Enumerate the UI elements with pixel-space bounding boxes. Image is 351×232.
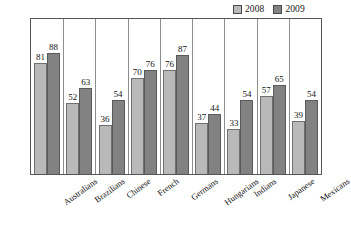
bar-rect[interactable] (112, 100, 125, 174)
bar-rect[interactable] (34, 63, 47, 174)
bar-group: 8188 (31, 19, 63, 174)
bar-group: 3354 (224, 19, 256, 174)
plot-inner: 818852633654707676873744335457653954 (31, 19, 321, 174)
bar-2009[interactable]: 76 (144, 19, 157, 174)
x-axis-label: Australians (62, 176, 100, 207)
x-axis-label: Chinese (124, 176, 152, 200)
bar-group-bars: 3354 (224, 19, 256, 174)
bar-group-bars: 8188 (31, 19, 63, 174)
bar-rect[interactable] (66, 103, 79, 174)
x-axis-label: Germans (189, 176, 220, 202)
legend-swatch-2009 (273, 5, 282, 14)
bar-group-bars: 7687 (160, 19, 192, 174)
bar-2009[interactable]: 63 (79, 19, 92, 174)
bar-group: 7687 (160, 19, 192, 174)
bar-rect[interactable] (305, 100, 318, 174)
x-axis-label: Japanese (285, 176, 316, 202)
bar-2008[interactable]: 52 (66, 19, 79, 174)
bar-rect[interactable] (227, 129, 240, 174)
chart-legend: 2008 2009 (233, 3, 305, 15)
bar-group-bars: 3654 (95, 19, 127, 174)
legend-item-2009: 2009 (273, 5, 304, 14)
legend-label-2009: 2009 (285, 5, 304, 14)
bar-2009[interactable]: 65 (273, 19, 286, 174)
bar-rect[interactable] (273, 85, 286, 174)
x-axis-label: Brazilians (93, 176, 127, 205)
bar-rect[interactable] (99, 125, 112, 174)
legend-swatch-2008 (233, 5, 242, 14)
bar-group-bars: 3744 (192, 19, 224, 174)
bar-2009[interactable]: 54 (305, 19, 318, 174)
bar-group: 3744 (192, 19, 224, 174)
bar-value-label: 88 (43, 43, 65, 52)
bar-2009[interactable]: 54 (112, 19, 125, 174)
bar-group-bars: 3954 (289, 19, 321, 174)
bar-group-bars: 5765 (257, 19, 289, 174)
x-axis-labels: AustraliansBraziliansChineseFrenchGerman… (30, 176, 322, 232)
bar-value-label: 44 (204, 104, 226, 113)
bar-group-bars: 5263 (63, 19, 95, 174)
bar-group: 5263 (63, 19, 95, 174)
bar-2008[interactable]: 76 (163, 19, 176, 174)
bar-group: 5765 (257, 19, 289, 174)
bar-rect[interactable] (131, 78, 144, 174)
bar-2009[interactable]: 44 (208, 19, 221, 174)
bar-rect[interactable] (260, 96, 273, 174)
bar-value-label: 65 (268, 75, 290, 84)
bar-rect[interactable] (208, 114, 221, 174)
bar-rect[interactable] (176, 55, 189, 174)
bar-rect[interactable] (163, 70, 176, 174)
bar-value-label: 87 (171, 45, 193, 54)
bar-group-bars: 7076 (128, 19, 160, 174)
bar-2009[interactable]: 88 (47, 19, 60, 174)
bar-rect[interactable] (144, 70, 157, 174)
legend-item-2008: 2008 (233, 5, 264, 14)
bar-rect[interactable] (195, 123, 208, 174)
x-axis-label: French (155, 176, 180, 198)
bar-group: 3954 (289, 19, 321, 174)
bar-2008[interactable]: 57 (260, 19, 273, 174)
bar-2009[interactable]: 54 (240, 19, 253, 174)
bar-group: 7076 (128, 19, 160, 174)
bar-group: 3654 (95, 19, 127, 174)
bar-rect[interactable] (47, 53, 60, 174)
bar-2009[interactable]: 87 (176, 19, 189, 174)
bar-rect[interactable] (292, 121, 305, 174)
bar-value-label: 63 (75, 78, 97, 87)
bar-2008[interactable]: 70 (131, 19, 144, 174)
bar-value-label: 54 (107, 90, 129, 99)
bar-2008[interactable]: 37 (195, 19, 208, 174)
plot-area: 818852633654707676873744335457653954 (30, 18, 322, 175)
legend-label-2008: 2008 (245, 5, 264, 14)
bar-rect[interactable] (240, 100, 253, 174)
x-axis-label: Mexicans (318, 176, 351, 204)
bar-rect[interactable] (79, 88, 92, 174)
bar-value-label: 54 (300, 90, 322, 99)
